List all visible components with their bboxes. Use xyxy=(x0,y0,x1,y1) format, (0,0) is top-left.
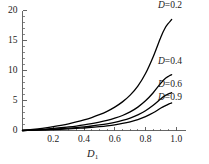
curve-label-value: =0.6 xyxy=(165,79,182,89)
curve-1 xyxy=(23,20,172,131)
curve-label-symbol: D xyxy=(158,0,165,10)
curve-label-value: =0.2 xyxy=(165,0,182,10)
curve-label-value: =0.4 xyxy=(165,56,182,66)
curve-label-2: D=0.4 xyxy=(158,57,182,67)
x-tick-label: 0.4 xyxy=(69,135,99,145)
curve-label-symbol: D xyxy=(158,56,165,66)
curve-label-3: D=0.6 xyxy=(158,80,182,90)
x-tick-label: 0.6 xyxy=(100,135,130,145)
y-tick-label: 5 xyxy=(0,96,18,106)
curve-3 xyxy=(23,93,172,131)
y-tick-label: 20 xyxy=(0,6,18,16)
y-tick-label: 15 xyxy=(0,36,18,46)
chart-figure: 05101520 0.20.40.60.81.0 D=0.2D=0.4D=0.6… xyxy=(0,0,209,164)
curve-label-1: D=0.2 xyxy=(158,1,182,11)
x-axis-title: D1 xyxy=(87,149,98,160)
curve-label-symbol: D xyxy=(158,79,165,89)
curve-4 xyxy=(23,103,172,131)
x-tick-label: 1.0 xyxy=(161,135,191,145)
x-tick-label: 0.2 xyxy=(38,135,68,145)
x-axis-title-subscript: 1 xyxy=(95,153,99,161)
x-tick-label: 0.8 xyxy=(131,135,161,145)
curve-label-value: =0.9 xyxy=(165,92,182,102)
curve-2 xyxy=(23,75,172,131)
y-tick-label: 10 xyxy=(0,66,18,76)
x-axis-title-symbol: D xyxy=(87,148,95,159)
curve-label-symbol: D xyxy=(158,92,165,102)
data-curves xyxy=(23,20,172,131)
curve-label-4: D=0.9 xyxy=(158,93,182,103)
y-tick-label: 0 xyxy=(0,126,18,136)
